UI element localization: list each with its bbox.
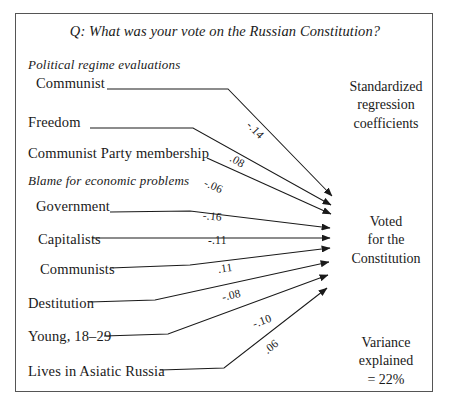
- coefficient-government: -.16: [202, 209, 222, 223]
- coefficient-communists: .11: [217, 261, 233, 275]
- arrow-lives-in-asiatic-russia: [160, 288, 327, 370]
- arrow-communist-party-membership: [207, 158, 331, 214]
- figure-canvas: Q: What was your vote on the Russian Con…: [0, 0, 450, 417]
- coefficient-capitalists: -.11: [208, 234, 227, 246]
- arrow-young-18-29: [104, 275, 328, 336]
- arrow-layer: [0, 0, 450, 417]
- arrow-destitution: [89, 262, 329, 302]
- arrow-freedom: [90, 128, 331, 205]
